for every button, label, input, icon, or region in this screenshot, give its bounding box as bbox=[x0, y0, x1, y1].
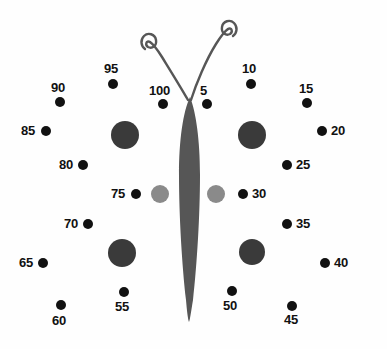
wing-spot-middle-left bbox=[151, 185, 169, 203]
puzzle-dot-label-85: 85 bbox=[21, 124, 35, 137]
wing-spot-middle-right bbox=[207, 185, 225, 203]
butterfly-body-shape bbox=[179, 97, 200, 322]
puzzle-dot-label-30: 30 bbox=[252, 187, 266, 200]
puzzle-dot-25[interactable] bbox=[282, 160, 292, 170]
puzzle-dot-label-60: 60 bbox=[52, 314, 66, 327]
puzzle-dot-100[interactable] bbox=[158, 99, 168, 109]
wing-spot-upper-left bbox=[111, 121, 139, 149]
puzzle-dot-45[interactable] bbox=[287, 301, 297, 311]
puzzle-dot-label-95: 95 bbox=[104, 62, 118, 75]
puzzle-dot-70[interactable] bbox=[83, 219, 93, 229]
puzzle-dot-label-70: 70 bbox=[64, 217, 78, 230]
puzzle-dot-65[interactable] bbox=[38, 258, 48, 268]
puzzle-dot-label-100: 100 bbox=[149, 84, 170, 97]
puzzle-dot-15[interactable] bbox=[302, 98, 312, 108]
puzzle-dot-label-50: 50 bbox=[223, 299, 237, 312]
puzzle-dot-5[interactable] bbox=[202, 99, 212, 109]
puzzle-dot-55[interactable] bbox=[119, 287, 129, 297]
puzzle-dot-label-10: 10 bbox=[242, 62, 256, 75]
puzzle-dot-label-90: 90 bbox=[51, 81, 65, 94]
connect-the-dots-puzzle: 5101520253035404550556065707580859095100 bbox=[0, 0, 387, 349]
puzzle-dot-60[interactable] bbox=[56, 300, 66, 310]
puzzle-dot-50[interactable] bbox=[227, 286, 237, 296]
puzzle-dot-80[interactable] bbox=[78, 160, 88, 170]
antenna-right-icon bbox=[191, 21, 237, 100]
puzzle-dot-label-35: 35 bbox=[296, 217, 310, 230]
puzzle-dot-label-20: 20 bbox=[331, 124, 345, 137]
wing-spot-lower-right bbox=[239, 239, 265, 265]
butterfly-artwork bbox=[0, 0, 387, 349]
puzzle-dot-10[interactable] bbox=[246, 79, 256, 89]
puzzle-dot-label-75: 75 bbox=[111, 187, 125, 200]
puzzle-dot-85[interactable] bbox=[41, 126, 51, 136]
puzzle-dot-35[interactable] bbox=[282, 219, 292, 229]
puzzle-dot-label-45: 45 bbox=[284, 313, 298, 326]
wing-spot-lower-left bbox=[108, 239, 136, 267]
puzzle-dot-label-80: 80 bbox=[59, 158, 73, 171]
puzzle-dot-30[interactable] bbox=[238, 189, 248, 199]
puzzle-dot-label-55: 55 bbox=[115, 300, 129, 313]
puzzle-dot-label-15: 15 bbox=[299, 82, 313, 95]
puzzle-dot-40[interactable] bbox=[320, 258, 330, 268]
puzzle-dot-label-40: 40 bbox=[334, 256, 348, 269]
puzzle-dot-label-5: 5 bbox=[200, 84, 207, 97]
puzzle-dot-20[interactable] bbox=[317, 126, 327, 136]
puzzle-dot-95[interactable] bbox=[108, 79, 118, 89]
puzzle-dot-label-25: 25 bbox=[296, 158, 310, 171]
wing-spot-upper-right bbox=[238, 121, 266, 149]
puzzle-dot-90[interactable] bbox=[55, 97, 65, 107]
puzzle-dot-75[interactable] bbox=[131, 189, 141, 199]
puzzle-dot-label-65: 65 bbox=[19, 256, 33, 269]
